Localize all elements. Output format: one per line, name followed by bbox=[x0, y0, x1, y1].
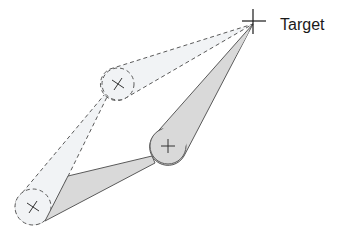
ik-chain-diagram: Target bbox=[0, 0, 338, 237]
solid-chain bbox=[45, 24, 253, 221]
target-crosshair-icon bbox=[242, 9, 266, 34]
ghost-chain bbox=[15, 24, 253, 225]
target-label: Target bbox=[280, 16, 325, 33]
